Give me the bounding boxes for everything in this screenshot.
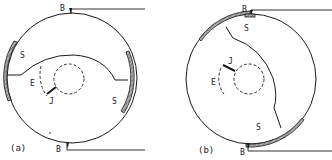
lead-bottom-a xyxy=(67,143,145,150)
panel-b: B B S S E J (b) xyxy=(186,5,332,157)
outer-circle-a xyxy=(7,13,137,143)
lead-bottom-b xyxy=(248,146,332,151)
dot-a xyxy=(49,132,51,134)
brush-bottom-a xyxy=(66,142,69,148)
label-b-top-b: B xyxy=(242,5,247,14)
shoe-left-a xyxy=(4,41,17,101)
arc-e-b xyxy=(219,68,224,94)
rotor-circle-b xyxy=(234,64,264,94)
panel-a: B B S S E J (a) xyxy=(4,4,145,154)
lead-top-b xyxy=(251,10,332,14)
label-s-left-a: S xyxy=(20,51,25,60)
label-j-a: J xyxy=(49,97,54,106)
label-b-bottom-a: B xyxy=(56,145,61,154)
lead-top-a xyxy=(71,9,145,14)
shoe-top-b-ext xyxy=(245,14,255,17)
label-b-top-a: B xyxy=(60,4,65,13)
shoe-bottom-b xyxy=(246,118,304,147)
label-s-right-a: S xyxy=(112,97,117,106)
label-e-b: E xyxy=(211,78,216,87)
rotor-circle-a xyxy=(54,64,84,94)
label-b-bottom-b: B xyxy=(240,148,245,157)
label-s-top-b: S xyxy=(244,24,249,33)
caption-b: (b) xyxy=(198,145,214,155)
pole-boundary-b xyxy=(226,27,281,128)
diagram: B B S S E J (a) B B S S E J (b) xyxy=(0,0,332,160)
label-s-bottom-b: S xyxy=(256,123,261,132)
shoe-top-b xyxy=(199,11,250,41)
j-conductor-a xyxy=(47,87,56,94)
label-e-a: E xyxy=(30,79,35,88)
caption-a: (a) xyxy=(10,143,26,153)
pole-boundary-a xyxy=(8,55,128,80)
label-j-b: J xyxy=(228,57,233,66)
arc-e-a xyxy=(40,66,47,96)
